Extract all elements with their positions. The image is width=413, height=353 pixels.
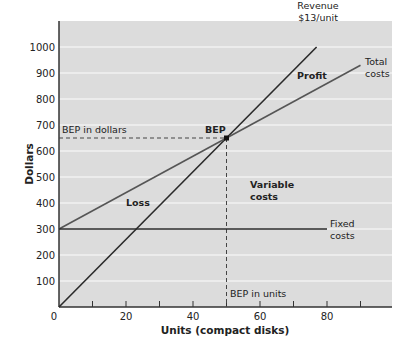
x-origin-label: 0	[51, 311, 57, 322]
series-label: costs	[365, 68, 390, 79]
break-even-chart: 20406080 1002003004005006007008009001000…	[0, 0, 413, 353]
bep-dollars-label: BEP in dollars	[62, 124, 127, 135]
y-tick-label: 400	[36, 198, 55, 209]
x-axis-title: Units (compact disks)	[161, 324, 290, 336]
series-label: Fixed	[330, 218, 355, 229]
y-tick-label: 700	[36, 120, 55, 131]
y-axis-title: Dollars	[23, 143, 35, 185]
y-tick-label: 1000	[30, 42, 55, 53]
series-label: costs	[330, 230, 355, 241]
variable-costs-label-line2: costs	[250, 191, 278, 202]
x-tick-label: 80	[321, 311, 334, 322]
plot-area	[59, 21, 392, 307]
y-tick-label: 500	[36, 172, 55, 183]
y-tick-label: 300	[36, 224, 55, 235]
profit-label: Profit	[297, 70, 327, 81]
y-tick-label: 800	[36, 94, 55, 105]
bep-marker	[224, 136, 229, 141]
y-tick-label: 100	[36, 276, 55, 287]
y-tick-label: 600	[36, 146, 55, 157]
loss-label: Loss	[126, 197, 150, 208]
variable-costs-label-line1: Variable	[250, 179, 294, 190]
series-label: $13/unit	[298, 12, 338, 23]
x-tick-label: 20	[120, 311, 133, 322]
bep-units-label: BEP in units	[230, 288, 286, 299]
chart-svg: 20406080 1002003004005006007008009001000…	[0, 0, 413, 353]
y-tick-label: 900	[36, 68, 55, 79]
x-tick-label: 40	[187, 311, 200, 322]
x-tick-label: 60	[254, 311, 267, 322]
y-tick-label: 200	[36, 250, 55, 261]
series-label: Revenue	[297, 0, 339, 11]
bep-label: BEP	[205, 124, 226, 135]
series-label: Total	[364, 56, 387, 67]
